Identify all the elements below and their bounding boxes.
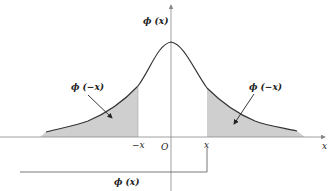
y-axis-label-text: ϕ (x) — [143, 16, 169, 26]
left-tail-label-text: ϕ (−x) — [71, 82, 104, 92]
left-tail-arrow — [88, 95, 112, 118]
left-tail-label: ϕ (−x) — [71, 83, 104, 92]
cumulative-bracket — [20, 148, 207, 172]
normal-distribution-diagram — [0, 0, 331, 191]
cumulative-label: ϕ (x) — [114, 178, 140, 187]
right-tail-label: ϕ (−x) — [249, 83, 282, 92]
neg-x-tick-label: −x — [132, 141, 145, 150]
right-tail-label-text: ϕ (−x) — [249, 82, 282, 92]
cumulative-label-text: ϕ (x) — [114, 177, 140, 187]
pos-x-tick-label: x — [204, 141, 209, 150]
x-axis-label: x — [322, 142, 327, 151]
y-axis-label: ϕ (x) — [143, 17, 169, 26]
origin-label: O — [161, 143, 168, 152]
